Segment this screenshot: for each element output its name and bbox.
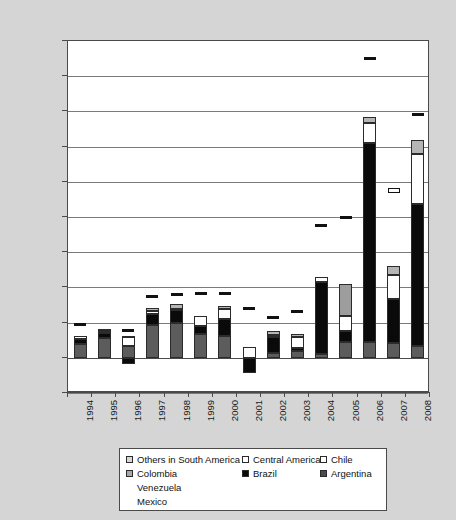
bar-group[interactable] <box>315 41 328 393</box>
marker-dash <box>267 316 279 319</box>
legend-item[interactable]: Brazil <box>242 468 277 479</box>
bar-segment[interactable] <box>146 311 159 315</box>
bar-segment[interactable] <box>194 326 207 334</box>
bar-group[interactable] <box>291 41 304 393</box>
bar-segment[interactable] <box>267 337 280 352</box>
bar-segment[interactable] <box>74 344 87 357</box>
bar-group[interactable] <box>146 41 159 393</box>
bar-segment[interactable] <box>98 331 111 333</box>
bar-segment[interactable] <box>74 339 87 344</box>
bar-segment[interactable] <box>170 304 183 308</box>
bar-segment[interactable] <box>267 331 280 335</box>
bar-group[interactable] <box>194 41 207 393</box>
bar-segment[interactable] <box>363 342 376 357</box>
bar-segment[interactable] <box>170 310 183 323</box>
legend-swatch-icon <box>126 470 133 477</box>
bar-segment[interactable] <box>339 342 352 357</box>
y-tick-mark <box>62 251 67 252</box>
bar-segment[interactable] <box>315 354 328 358</box>
bar-group[interactable] <box>243 41 256 393</box>
bar-segment[interactable] <box>122 358 135 364</box>
bar-segment[interactable] <box>411 154 424 203</box>
bar-segment[interactable] <box>218 319 231 336</box>
legend-label: Argentina <box>331 468 372 479</box>
legend-item[interactable]: Others in South America <box>126 454 240 465</box>
bar-segment[interactable] <box>339 316 352 331</box>
bar-segment[interactable] <box>146 325 159 358</box>
x-tick-label: 2007 <box>398 400 409 421</box>
x-tick-mark <box>139 392 140 397</box>
bar-segment[interactable] <box>411 140 424 154</box>
bar-segment[interactable] <box>387 343 400 358</box>
bar-segment[interactable] <box>339 331 352 342</box>
bar-group[interactable] <box>267 41 280 393</box>
bar-segment[interactable] <box>339 284 352 316</box>
legend-swatch-icon <box>126 484 133 491</box>
bar-segment[interactable] <box>363 143 376 342</box>
legend-item[interactable]: Chile <box>320 454 353 465</box>
bar-segment[interactable] <box>218 336 231 358</box>
bar-segment[interactable] <box>98 333 111 338</box>
x-tick-label: 2001 <box>253 400 264 421</box>
marker-dash <box>388 188 400 193</box>
legend-swatch-icon <box>242 456 249 463</box>
bar-segment[interactable] <box>315 282 328 353</box>
bar-segment[interactable] <box>411 204 424 346</box>
bar-segment[interactable] <box>243 358 256 373</box>
x-tick-mark <box>260 392 261 397</box>
bar-segment[interactable] <box>122 337 135 345</box>
bar-group[interactable] <box>170 41 183 393</box>
bar-segment[interactable] <box>122 336 135 338</box>
bar-segment[interactable] <box>387 275 400 300</box>
bar-group[interactable] <box>387 41 400 393</box>
bar-segment[interactable] <box>122 346 135 358</box>
x-tick-mark <box>188 392 189 397</box>
legend-item[interactable]: Argentina <box>320 468 372 479</box>
bar-segment[interactable] <box>243 347 256 358</box>
y-tick-mark <box>62 75 67 76</box>
bar-segment[interactable] <box>291 337 304 348</box>
bar-segment[interactable] <box>146 308 159 311</box>
bar-group[interactable] <box>98 41 111 393</box>
x-tick-label: 2004 <box>325 400 336 421</box>
y-tick-mark <box>62 110 67 111</box>
bar-segment[interactable] <box>411 346 424 358</box>
y-tick-mark <box>62 322 67 323</box>
y-tick-mark <box>62 286 67 287</box>
bar-segment[interactable] <box>98 329 111 331</box>
bar-segment[interactable] <box>170 323 183 357</box>
bar-group[interactable] <box>363 41 376 393</box>
bar-segment[interactable] <box>387 266 400 274</box>
marker-dash <box>122 329 134 332</box>
bar-segment[interactable] <box>218 309 231 319</box>
bar-segment[interactable] <box>267 353 280 358</box>
bar-segment[interactable] <box>267 335 280 337</box>
bar-segment[interactable] <box>291 351 304 358</box>
legend-item[interactable]: Colombia <box>126 468 177 479</box>
bar-segment[interactable] <box>218 306 231 310</box>
marker-dash <box>243 307 255 310</box>
x-tick-label: 1996 <box>132 400 143 421</box>
legend-item[interactable]: Mexico <box>126 496 167 507</box>
legend-label: Central America <box>253 454 321 465</box>
bar-group[interactable] <box>218 41 231 393</box>
bar-segment[interactable] <box>363 123 376 143</box>
bar-segment[interactable] <box>194 316 207 326</box>
bar-segment[interactable] <box>315 277 328 283</box>
bar-group[interactable] <box>122 41 135 393</box>
x-tick-label: 1997 <box>156 400 167 421</box>
bar-segment[interactable] <box>291 334 304 338</box>
bar-group[interactable] <box>74 41 87 393</box>
bar-segment[interactable] <box>291 348 304 351</box>
bar-segment[interactable] <box>146 314 159 325</box>
bar-segment[interactable] <box>74 336 87 340</box>
bar-segment[interactable] <box>387 299 400 343</box>
bar-segment[interactable] <box>98 338 111 358</box>
legend-item[interactable]: Central America <box>242 454 321 465</box>
bar-group[interactable] <box>411 41 424 393</box>
bar-segment[interactable] <box>194 334 207 358</box>
marker-dash <box>171 293 183 296</box>
legend-item[interactable]: Venezuela <box>126 482 181 493</box>
bar-segment[interactable] <box>363 117 376 123</box>
bar-segment[interactable] <box>170 309 183 311</box>
